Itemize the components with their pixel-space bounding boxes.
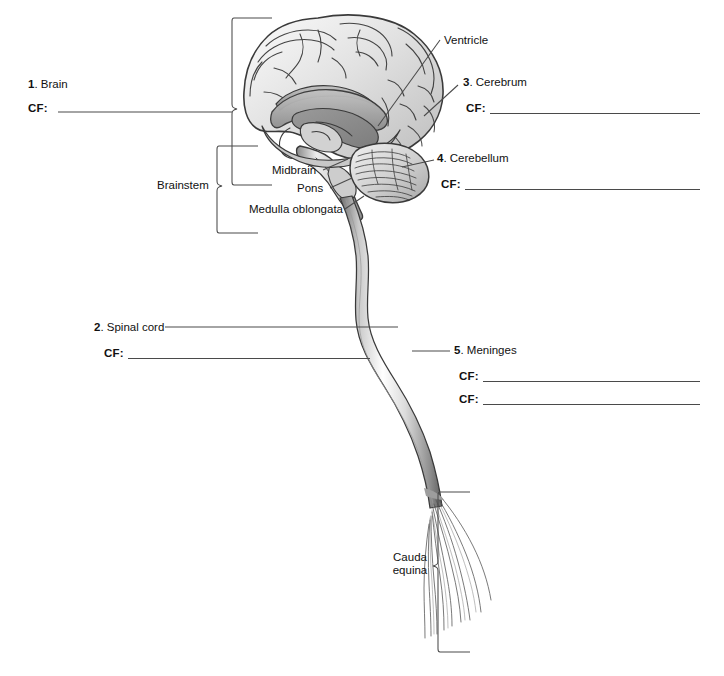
label-brainstem: Brainstem xyxy=(157,179,209,192)
cf-field-cerebrum[interactable]: CF: xyxy=(466,100,700,114)
cf-writing-line-spinal-cord[interactable] xyxy=(128,347,370,359)
cf-label-brain: CF: xyxy=(28,102,52,114)
label-brain: 1. Brain xyxy=(28,78,68,91)
cf-writing-line-meninges-1[interactable] xyxy=(483,370,700,382)
cf-label-spinal-cord: CF: xyxy=(104,347,128,359)
cf-label-meninges-1: CF: xyxy=(459,370,483,382)
cf-field-cerebellum[interactable]: CF: xyxy=(441,176,700,190)
cf-writing-line-meninges-2[interactable] xyxy=(483,393,700,405)
label-cerebrum-text: Cerebrum xyxy=(476,76,527,88)
label-meninges-text: Meninges xyxy=(467,344,517,356)
label-cerebellum-text: Cerebellum xyxy=(450,152,509,164)
cf-field-meninges-2[interactable]: CF: xyxy=(459,391,700,405)
label-cauda-equina-line1: Cauda xyxy=(393,551,427,563)
cf-writing-line-cerebellum[interactable] xyxy=(465,178,700,190)
cf-label-cerebellum: CF: xyxy=(441,178,465,190)
cf-field-brain[interactable]: CF: xyxy=(28,100,232,114)
label-cauda-equina: Cauda equina xyxy=(388,551,432,577)
cf-label-cerebrum: CF: xyxy=(466,102,490,114)
label-spinal-cord: 2. Spinal cord xyxy=(94,321,164,334)
label-cerebrum: 3. Cerebrum xyxy=(463,76,527,89)
label-medulla-oblongata: Medulla oblongata xyxy=(249,203,343,216)
cf-field-meninges-1[interactable]: CF: xyxy=(459,368,700,382)
label-brain-text: Brain xyxy=(41,78,68,90)
label-meninges: 5. Meninges xyxy=(454,344,517,357)
label-ventricle: Ventricle xyxy=(444,34,488,47)
cf-label-meninges-2: CF: xyxy=(459,393,483,405)
cf-writing-line-cerebrum[interactable] xyxy=(490,102,700,114)
label-cerebellum: 4. Cerebellum xyxy=(437,152,509,165)
label-midbrain: Midbrain xyxy=(272,164,316,177)
label-pons: Pons xyxy=(297,182,323,195)
cf-field-spinal-cord[interactable]: CF: xyxy=(104,345,370,359)
worksheet-page: 1. Brain CF: 2. Spinal cord CF: 3. Cereb… xyxy=(0,0,724,676)
label-spinal-cord-text: Spinal cord xyxy=(107,321,165,333)
cf-writing-line-brain[interactable] xyxy=(52,103,232,114)
label-cauda-equina-line2: equina xyxy=(393,564,428,576)
